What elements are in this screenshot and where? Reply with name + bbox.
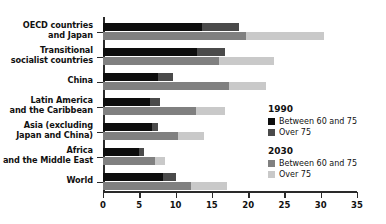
x-axis-tick-label: 15 bbox=[206, 200, 218, 210]
chart-legend: 1990Between 60 and 75Over 752030Between … bbox=[268, 104, 384, 180]
legend-label: Between 60 and 75 bbox=[279, 159, 357, 168]
y-axis-tick bbox=[97, 132, 103, 134]
bar-segment bbox=[103, 148, 139, 156]
bar-segment bbox=[191, 182, 227, 190]
bar-segment bbox=[196, 107, 225, 115]
bar-segment bbox=[202, 23, 238, 31]
legend-label: Over 75 bbox=[279, 128, 311, 137]
bar-segment bbox=[103, 98, 150, 106]
x-axis-tick bbox=[284, 192, 285, 198]
legend-group-title: 1990 bbox=[268, 104, 384, 114]
bar-segment bbox=[103, 32, 246, 40]
bar-segment bbox=[155, 157, 164, 165]
legend-swatch bbox=[268, 171, 275, 178]
bar-segment bbox=[163, 173, 176, 181]
legend-group-title: 2030 bbox=[268, 146, 384, 156]
category-label: OECD countries and Japan bbox=[23, 21, 93, 40]
x-axis-tick-label: 30 bbox=[315, 200, 327, 210]
y-axis-tick bbox=[97, 57, 103, 59]
legend-label: Between 60 and 75 bbox=[279, 117, 357, 126]
bar-segment bbox=[158, 73, 173, 81]
category-label: World bbox=[66, 176, 93, 186]
bar-segment bbox=[103, 82, 229, 90]
legend-label: Over 75 bbox=[279, 170, 311, 179]
x-axis-tick-label: 35 bbox=[351, 200, 363, 210]
legend-swatch bbox=[268, 160, 275, 167]
x-axis-tick bbox=[103, 192, 104, 198]
x-axis-tick-label: 10 bbox=[170, 200, 182, 210]
category-label: Transitional socialist countries bbox=[11, 46, 93, 65]
bar-segment bbox=[103, 107, 196, 115]
x-axis-tick bbox=[248, 192, 249, 198]
category-label: Latin America and the Caribbean bbox=[9, 96, 93, 115]
y-axis-tick bbox=[97, 107, 103, 109]
bar-segment bbox=[103, 173, 163, 181]
category-label: Africa and the Middle East bbox=[3, 146, 93, 165]
y-axis-tick bbox=[97, 182, 103, 184]
x-axis-tick bbox=[212, 192, 213, 198]
bar-segment bbox=[103, 57, 219, 65]
category-axis-labels: OECD countries and JapanTransitional soc… bbox=[0, 0, 98, 224]
bar-segment bbox=[219, 57, 273, 65]
x-axis-tick bbox=[321, 192, 322, 198]
legend-item: Between 60 and 75 bbox=[268, 158, 384, 169]
bar-chart: OECD countries and JapanTransitional soc… bbox=[0, 0, 386, 224]
bar-segment bbox=[139, 148, 144, 156]
bar-segment bbox=[150, 98, 160, 106]
y-axis-tick bbox=[97, 32, 103, 34]
x-axis-tick bbox=[139, 192, 140, 198]
bar-segment bbox=[103, 157, 155, 165]
legend-swatch bbox=[268, 129, 275, 136]
legend-swatch bbox=[268, 118, 275, 125]
legend-item: Between 60 and 75 bbox=[268, 116, 384, 127]
bar-segment bbox=[103, 123, 152, 131]
bar-segment bbox=[103, 48, 197, 56]
bar-segment bbox=[246, 32, 324, 40]
legend-item: Over 75 bbox=[268, 169, 384, 180]
category-label: Asia (excluding Japan and China) bbox=[16, 121, 93, 140]
x-axis-tick-label: 25 bbox=[279, 200, 291, 210]
x-axis-tick-label: 5 bbox=[136, 200, 142, 210]
bar-segment bbox=[178, 132, 203, 140]
y-axis-tick bbox=[97, 82, 103, 84]
category-label: China bbox=[68, 76, 94, 86]
bar-segment bbox=[103, 182, 191, 190]
bar-segment bbox=[103, 132, 178, 140]
bar-segment bbox=[103, 23, 202, 31]
x-axis-line bbox=[103, 191, 357, 193]
x-axis-tick bbox=[357, 192, 358, 198]
bar-segment bbox=[229, 82, 266, 90]
legend-item: Over 75 bbox=[268, 127, 384, 138]
x-axis-tick bbox=[176, 192, 177, 198]
x-axis-tick-label: 0 bbox=[100, 200, 106, 210]
bar-segment bbox=[103, 73, 158, 81]
bar-segment bbox=[197, 48, 225, 56]
y-axis-tick bbox=[97, 157, 103, 159]
x-axis-tick-label: 20 bbox=[242, 200, 254, 210]
bar-segment bbox=[152, 123, 158, 131]
